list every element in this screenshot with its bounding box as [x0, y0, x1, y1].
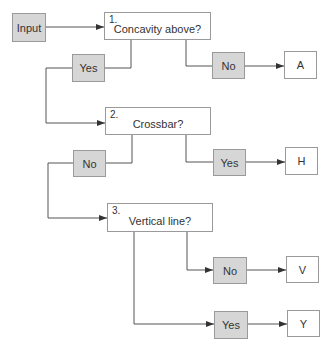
output-label: H	[298, 155, 306, 167]
output-v: V	[286, 256, 319, 283]
answer-label: Yes	[221, 157, 239, 169]
answer-label: Yes	[80, 62, 98, 74]
answer-q2-no: No	[73, 150, 106, 177]
answer-q2-yes: Yes	[213, 149, 246, 176]
question-2-text: Crossbar?	[106, 112, 210, 130]
question-1-node: 1. Concavity above?	[104, 12, 211, 40]
answer-q3-no: No	[213, 257, 247, 284]
input-node: Input	[12, 13, 46, 42]
question-1-text: Concavity above?	[105, 17, 210, 35]
output-a: A	[284, 51, 317, 79]
answer-q1-yes: Yes	[72, 54, 105, 82]
answer-label: Yes	[222, 319, 240, 331]
output-y: Y	[287, 310, 320, 337]
question-1-number: 1.	[109, 14, 117, 25]
output-label: V	[299, 264, 306, 276]
answer-label: No	[221, 60, 235, 72]
question-3-text: Vertical line?	[108, 209, 212, 227]
connector-lines	[0, 0, 330, 353]
output-label: Y	[300, 318, 307, 330]
output-h: H	[285, 147, 318, 175]
answer-label: No	[82, 158, 96, 170]
answer-q3-yes: Yes	[214, 311, 248, 339]
question-2-number: 2.	[110, 109, 118, 120]
question-3-number: 3.	[112, 205, 120, 216]
output-label: A	[297, 59, 304, 71]
input-label: Input	[17, 22, 41, 34]
question-3-node: 3. Vertical line?	[107, 203, 213, 232]
answer-label: No	[223, 265, 237, 277]
question-2-node: 2. Crossbar?	[105, 107, 211, 135]
answer-q1-no: No	[212, 52, 245, 79]
